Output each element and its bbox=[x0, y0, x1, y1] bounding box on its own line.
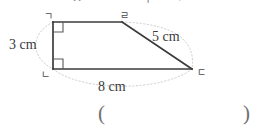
vertex-label-top-left: ㄱ bbox=[44, 12, 53, 22]
vertex-label-bottom-right: ㄷ bbox=[197, 68, 206, 78]
arc-left-side bbox=[36, 22, 53, 69]
answer-paren-close: ) bbox=[243, 99, 250, 127]
right-angle-marks bbox=[53, 22, 63, 69]
side-length-label-left: 3 cm bbox=[9, 38, 37, 52]
answer-blank: ( ) bbox=[0, 99, 261, 127]
side-length-label-bottom: 8 cm bbox=[98, 80, 126, 94]
trapezoid-diagram bbox=[0, 0, 261, 100]
geometry-figure: 3 cm 5 cm 8 cm ㄱ ㄹ ㄷ ㄴ bbox=[0, 0, 261, 100]
right-angle-mark-bottom-left bbox=[53, 59, 63, 69]
vertex-label-top-right: ㄹ bbox=[120, 11, 129, 21]
side-length-label-slant: 5 cm bbox=[152, 30, 180, 44]
right-angle-mark-top-left bbox=[53, 22, 63, 32]
answer-paren-open: ( bbox=[98, 99, 105, 127]
vertex-label-bottom-left: ㄴ bbox=[41, 70, 50, 80]
